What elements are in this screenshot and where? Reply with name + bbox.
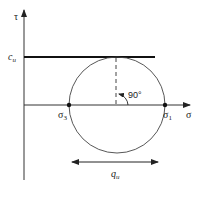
sigma-axis-label: σ [186,110,191,120]
mohr-circle-diagram [0,0,200,203]
sigma1-point [163,103,167,107]
angle-label: 90° [128,91,142,100]
qu-label: qu [111,169,120,181]
tau-axis-label: τ [14,12,18,22]
cohesion-label: cu [8,52,16,64]
right-angle-arc-icon [119,94,128,105]
sigma3-label: σ3 [58,110,67,122]
sigma1-label: σ1 [163,110,172,122]
sigma3-point [67,103,71,107]
